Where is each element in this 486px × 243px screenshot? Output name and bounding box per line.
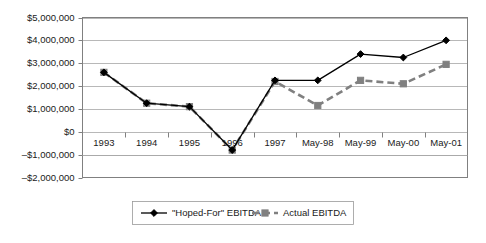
series-data-point xyxy=(400,81,406,87)
y-tick-label: $3,000,000 xyxy=(27,57,75,68)
x-tick-label: 1997 xyxy=(264,137,285,148)
legend-marker-swatch xyxy=(262,210,268,216)
y-tick-label: $5,000,000 xyxy=(27,12,75,23)
chart-legend: "Hoped-For" EBITDAActual EBITDA xyxy=(133,202,354,225)
x-axis-tick-labels: 19931994199519961997May-98May-99May-00Ma… xyxy=(93,137,462,148)
ebitda-line-chart: $5,000,000$4,000,000$3,000,000$2,000,000… xyxy=(0,0,486,243)
y-tick-label: –$2,000,000 xyxy=(22,172,75,183)
y-tick-label: –$1,000,000 xyxy=(22,149,75,160)
x-tick-label: 1994 xyxy=(136,137,157,148)
series-data-point xyxy=(443,61,449,67)
chart-canvas: $5,000,000$4,000,000$3,000,000$2,000,000… xyxy=(0,0,486,243)
series-data-point xyxy=(357,77,363,83)
legend-label: Actual EBITDA xyxy=(283,207,347,218)
y-tick-label: $1,000,000 xyxy=(27,103,75,114)
x-tick-label: May-99 xyxy=(345,137,377,148)
x-tick-label: May-00 xyxy=(387,137,419,148)
series-data-point xyxy=(315,102,321,108)
y-tick-label: $2,000,000 xyxy=(27,80,75,91)
x-tick-label: 1993 xyxy=(93,137,114,148)
x-tick-label: May-98 xyxy=(302,137,334,148)
legend-label: "Hoped-For" EBITDA xyxy=(172,207,262,218)
x-tick-label: May-01 xyxy=(430,137,462,148)
y-tick-label: $0 xyxy=(64,126,75,137)
y-tick-label: $4,000,000 xyxy=(27,34,75,45)
x-tick-label: 1995 xyxy=(179,137,200,148)
